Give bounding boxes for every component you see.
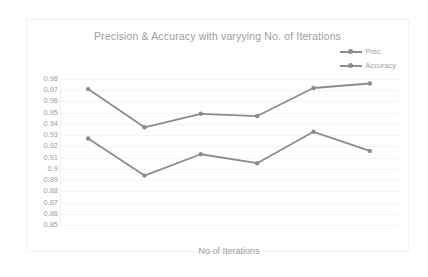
data-point[interactable] bbox=[311, 130, 315, 134]
y-axis-tick-label: 0.86 bbox=[27, 210, 58, 218]
y-axis-tick-label: 0.91 bbox=[27, 154, 58, 162]
data-point[interactable] bbox=[368, 81, 372, 85]
plot-area bbox=[60, 79, 398, 225]
y-axis-tick-labels: 0.980.970.960.950.940.930.920.910.90.890… bbox=[27, 79, 58, 225]
data-point[interactable] bbox=[86, 87, 90, 91]
chart-container: Precision & Accuracy with varyying No. o… bbox=[26, 19, 409, 252]
data-point[interactable] bbox=[368, 149, 372, 153]
y-axis-tick-label: 0.88 bbox=[27, 187, 58, 195]
series-canvas bbox=[60, 79, 398, 225]
y-axis-tick-label: 0.9 bbox=[27, 165, 58, 173]
data-point[interactable] bbox=[86, 136, 90, 140]
data-point[interactable] bbox=[142, 125, 146, 129]
y-axis-tick-label: 0.97 bbox=[27, 86, 58, 94]
y-axis-tick-label: 0.93 bbox=[27, 131, 58, 139]
y-axis-tick-label: 0.89 bbox=[27, 176, 58, 184]
y-axis-tick-label: 0.85 bbox=[27, 221, 58, 229]
series-line-prec bbox=[88, 132, 370, 176]
series-line-accuracy bbox=[88, 83, 370, 127]
data-point[interactable] bbox=[255, 161, 259, 165]
x-axis-title: No of Iterations bbox=[60, 246, 398, 256]
y-axis-tick-label: 0.92 bbox=[27, 142, 58, 150]
data-point[interactable] bbox=[199, 152, 203, 156]
plot-wrapper: 0.980.970.960.950.940.930.920.910.90.890… bbox=[27, 20, 408, 251]
data-point[interactable] bbox=[255, 114, 259, 118]
y-axis-tick-label: 0.95 bbox=[27, 109, 58, 117]
y-axis-tick-label: 0.94 bbox=[27, 120, 58, 128]
data-point[interactable] bbox=[311, 86, 315, 90]
y-axis-tick-label: 0.96 bbox=[27, 97, 58, 105]
y-axis-tick-label: 0.87 bbox=[27, 199, 58, 207]
gridline bbox=[60, 225, 398, 226]
y-axis-tick-label: 0.98 bbox=[27, 75, 58, 83]
data-point[interactable] bbox=[199, 112, 203, 116]
data-point[interactable] bbox=[142, 173, 146, 177]
